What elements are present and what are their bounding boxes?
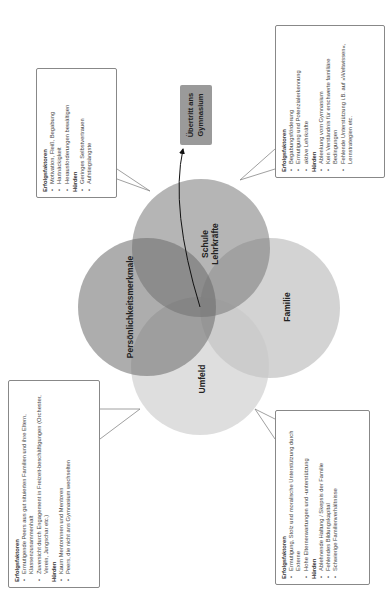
- label-familie: Familie: [282, 292, 292, 321]
- target-box: Übertritt ans Gymnasium: [180, 85, 212, 145]
- callout-familie: Erfolgsfaktoren Ermutigung, Stolz und mo…: [275, 410, 370, 585]
- callout-umfeld: Erfolgsfaktoren Ermutigende Peers aus gu…: [8, 380, 100, 588]
- venn-diagram: Schule Lehrkräfte Persönlichkeitsmerkmal…: [0, 0, 388, 589]
- label-persoenlichkeit: Persönlichkeitsmerkmale: [125, 256, 135, 359]
- callout-persoenlichkeit: Erfolgsfaktoren Motivation, Fleiß, Begab…: [36, 68, 117, 198]
- arrow: [179, 149, 200, 307]
- label-schule: Schule Lehrkräfte: [200, 223, 220, 265]
- label-umfeld: Umfeld: [197, 365, 207, 394]
- callout-schule: Erfolgsfaktoren Begabungsförderung Ermut…: [275, 25, 385, 178]
